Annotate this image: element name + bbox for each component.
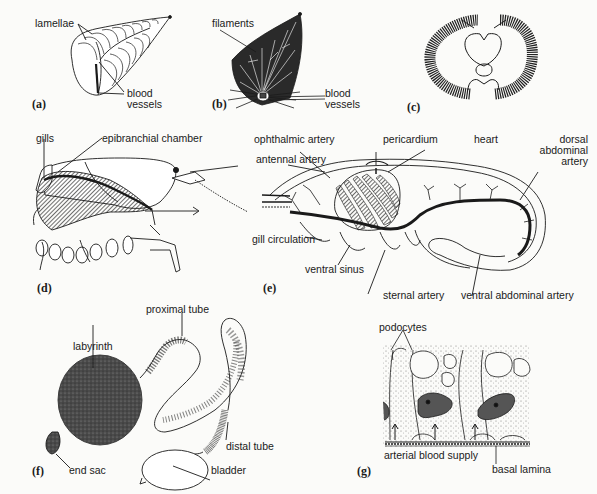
panel-tag-g: (g) bbox=[357, 464, 371, 479]
label-labyrinth: labyrinth bbox=[73, 341, 113, 352]
label-ventral-sinus: ventral sinus bbox=[305, 264, 364, 275]
panel-tag-e: (e) bbox=[263, 281, 276, 296]
label-ophthalmic-artery: ophthalmic artery bbox=[254, 134, 335, 145]
panel-tag-c: (c) bbox=[407, 100, 420, 115]
label-blood-vessels-b-line2: vessels bbox=[325, 99, 360, 110]
panel-g-podocyte-tissue bbox=[383, 330, 530, 464]
diagram-artwork bbox=[0, 0, 597, 494]
label-sternal-artery: sternal artery bbox=[383, 290, 444, 301]
crustacean-gill-and-excretory-diagram: lamellae blood vessels (a) filaments blo… bbox=[0, 0, 597, 494]
label-proximal-tube: proximal tube bbox=[146, 304, 209, 315]
label-antennal-artery: antennal artery bbox=[256, 154, 326, 165]
panel-c-gill-cross-section bbox=[430, 20, 532, 94]
label-end-sac: end sac bbox=[69, 465, 106, 476]
label-basal-lamina: basal lamina bbox=[492, 464, 551, 475]
label-heart: heart bbox=[474, 134, 498, 145]
panel-tag-b: (b) bbox=[212, 97, 227, 112]
label-dorsal-abdominal-artery-line3: artery bbox=[530, 156, 588, 167]
panel-tag-f: (f) bbox=[32, 464, 44, 479]
panel-tag-d: (d) bbox=[37, 281, 52, 296]
label-epibranchial-chamber: epibranchial chamber bbox=[102, 133, 202, 144]
label-blood-vessels-a-line2: vessels bbox=[127, 99, 162, 110]
panel-d-crayfish-gill-chamber bbox=[33, 138, 248, 272]
label-lamellae: lamellae bbox=[35, 18, 74, 29]
label-filaments: filaments bbox=[212, 18, 254, 29]
label-bladder: bladder bbox=[211, 465, 246, 476]
panel-tag-a: (a) bbox=[32, 97, 46, 112]
label-pericardium: pericardium bbox=[383, 134, 438, 145]
panel-a-lamellar-gill bbox=[71, 16, 171, 96]
label-gills: gills bbox=[36, 133, 54, 144]
label-arterial-blood-supply: arterial blood supply bbox=[384, 450, 478, 461]
label-gill-circulation: gill circulation bbox=[252, 234, 315, 245]
label-distal-tube: distal tube bbox=[226, 441, 274, 452]
label-ventral-abdominal-artery: ventral abdominal artery bbox=[461, 290, 574, 301]
label-podocytes: podocytes bbox=[379, 322, 427, 333]
